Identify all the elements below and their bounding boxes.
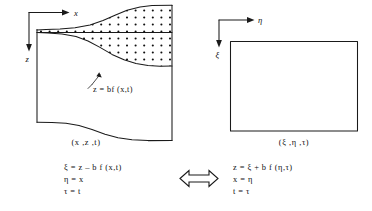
left-domain-top-curve: [37, 5, 172, 30]
left-axes: [26, 10, 69, 52]
right-axis-xi-arrowhead: [216, 40, 222, 48]
right-domain-tuple-label: (ξ ,η ,τ): [279, 138, 309, 147]
equation-left-1: ξ = z – b f (x,t): [64, 163, 122, 172]
equation-right-1: z = ξ + b f (η,τ): [233, 163, 293, 172]
transformation-diagram: x z: [0, 0, 372, 211]
right-domain-rectangle: [231, 42, 358, 132]
left-domain-outline: [37, 5, 172, 140]
equation-right-3: t = τ: [233, 187, 250, 196]
bf-boundary-label: z = bf (x,t): [93, 85, 133, 94]
bf-leader-tick: [88, 85, 92, 89]
right-axis-eta-label: η: [258, 15, 262, 25]
left-domain-bf-curve: [37, 33, 172, 67]
bf-leader-arrowhead: [96, 72, 101, 77]
left-axis-x-label: x: [73, 8, 78, 18]
right-axes: [216, 17, 254, 47]
left-axis-z-label: z: [25, 54, 30, 64]
left-domain-bottom-curve: [37, 122, 172, 140]
left-axis-x-arrowhead: [62, 10, 70, 16]
equations-right-block: z = ξ + b f (η,τ) x = η t = τ: [233, 163, 293, 196]
right-axis-xi-label: ξ: [216, 50, 220, 60]
equations-left-block: ξ = z – b f (x,t) η = x τ = t: [64, 163, 122, 196]
left-axis-z-arrowhead: [26, 44, 32, 52]
mapping-double-arrow: [180, 171, 218, 187]
figure-root: x z: [0, 0, 372, 211]
equation-right-2: x = η: [233, 175, 253, 184]
left-domain-tuple-label: (x ,z ,t): [71, 138, 100, 147]
equation-left-3: τ = t: [64, 187, 81, 196]
equation-left-2: η = x: [64, 175, 84, 184]
right-axis-eta-arrowhead: [247, 17, 255, 23]
